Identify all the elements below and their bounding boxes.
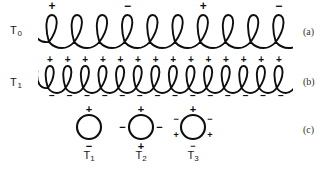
circle-t3-charge-6: +: [207, 130, 212, 139]
circle-t3-charge-1: +: [190, 103, 196, 114]
circle-t1-label: T1: [83, 149, 94, 163]
circle-t2-label-symbol: T: [135, 149, 142, 161]
charge-coil-figure: T0 +−+− (a) T1 ++++++++++++++−−−−−−−−−−−…: [0, 0, 329, 171]
circle-t3-label-symbol: T: [187, 149, 194, 161]
circle-t3-charge-4: −: [207, 115, 212, 124]
circle-t2-charge-3: −: [119, 122, 125, 133]
circle-t1-charge-1: +: [86, 103, 92, 114]
circle-t3-label-subscript: 3: [194, 154, 198, 163]
circle-t2-charge-1: +: [138, 103, 144, 114]
row-c-charge-group: +−T1++−−T2+−−−++T3: [0, 0, 329, 171]
circle-t2-label-subscript: 2: [142, 154, 146, 163]
circle-t3-charge-3: −: [174, 115, 179, 124]
circle-t1-label-symbol: T: [83, 149, 90, 161]
circle-t1-label-subscript: 1: [90, 154, 94, 163]
circle-t2-label: T2: [135, 149, 146, 163]
circle-t3-charge-5: +: [174, 130, 179, 139]
circle-t3-label: T3: [187, 149, 198, 163]
panel-label-c: (c): [303, 124, 314, 135]
circle-t2-charge-4: −: [156, 122, 162, 133]
